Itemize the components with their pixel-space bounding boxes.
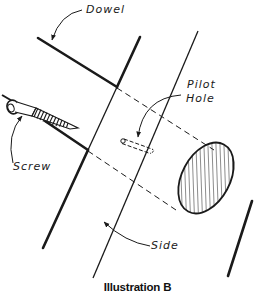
diagram-drawing	[0, 0, 275, 297]
dowel-leader-arrow	[52, 10, 82, 40]
board-edge-upper	[38, 38, 117, 87]
board-edge-long	[43, 37, 140, 248]
label-side: Side	[151, 239, 179, 252]
board-edge-right	[228, 201, 252, 276]
label-screw: Screw	[13, 160, 51, 173]
side-board-line	[93, 31, 198, 278]
screw-icon	[2, 95, 78, 129]
label-hole: Hole	[186, 92, 215, 105]
screw-leader-arrow	[11, 116, 22, 163]
pilot-hole-leader-arrow	[138, 95, 181, 137]
figure-caption: Illustration B	[0, 281, 275, 293]
dowel-end-icon	[167, 133, 245, 223]
side-leader-arrow	[104, 222, 150, 246]
illustration: Dowel Pilot Hole Screw Side Illustration…	[0, 0, 275, 297]
label-pilot: Pilot	[187, 78, 216, 91]
label-dowel: Dowel	[86, 3, 125, 16]
